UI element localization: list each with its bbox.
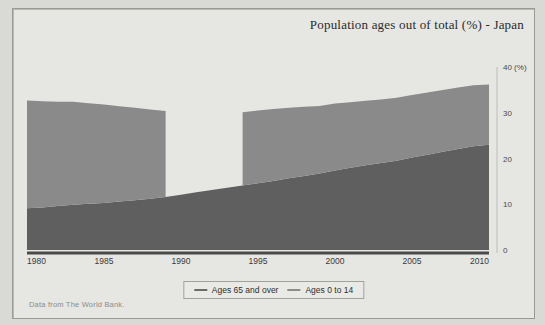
- legend-item-2[interactable]: Ages 0 to 14: [287, 285, 353, 295]
- legend-item-1[interactable]: Ages 65 and over: [194, 285, 279, 295]
- x-tick-2005: 2005: [403, 256, 422, 266]
- x-tick-1990: 1990: [172, 256, 191, 266]
- x-tick-1995: 1995: [249, 256, 268, 266]
- line-swatch-dark-icon: [194, 289, 207, 291]
- stacked-area-bands: [27, 84, 489, 250]
- line-swatch-light-icon: [287, 289, 300, 291]
- source-note: Data from The World Bank.: [29, 300, 125, 309]
- legend-label: Ages 0 to 14: [305, 285, 353, 295]
- plot-area: 1980198519901995200020052010 010203040 (…: [13, 9, 534, 318]
- x-tick-2010: 2010: [470, 256, 489, 266]
- y-tick-10: 10: [503, 200, 512, 209]
- y-tick-40: 40 (%): [503, 63, 527, 72]
- chart-svg: 1980198519901995200020052010 010203040 (…: [13, 9, 534, 318]
- y-axis-tick-labels: 010203040 (%): [503, 63, 527, 255]
- x-axis-tick-labels: 1980198519901995200020052010: [27, 256, 489, 266]
- y-tick-20: 20: [503, 155, 512, 164]
- chart-legend: Ages 65 and overAges 0 to 14: [183, 281, 364, 299]
- x-tick-2000: 2000: [326, 256, 345, 266]
- area-band-ages-0-to-14-segment-1: [27, 100, 166, 208]
- chart-panel: Population ages out of total (%) - Japan…: [12, 8, 535, 319]
- x-tick-1980: 1980: [27, 256, 46, 266]
- y-tick-0: 0: [503, 246, 508, 255]
- y-tick-30: 30: [503, 109, 512, 118]
- x-tick-1985: 1985: [95, 256, 114, 266]
- legend-label: Ages 65 and over: [212, 285, 279, 295]
